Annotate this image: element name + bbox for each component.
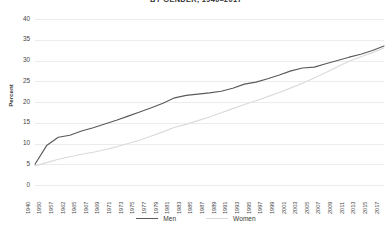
y-axis-tick-label: 10 bbox=[14, 140, 30, 146]
x-axis-tick-label: 1981 bbox=[163, 188, 172, 214]
x-axis-tick-label: 2011 bbox=[338, 188, 347, 214]
x-axis-tick-label: 1940 bbox=[24, 188, 33, 214]
x-axis-tick-label: 2001 bbox=[280, 188, 289, 214]
x-axis-tick-label: 1971 bbox=[105, 188, 114, 214]
x-axis-tick-label: 1993 bbox=[233, 188, 242, 214]
x-axis-tick-label: 1962 bbox=[59, 188, 68, 214]
series-lines bbox=[35, 19, 384, 185]
x-axis-tick-label: 1987 bbox=[198, 188, 207, 214]
legend-label: Women bbox=[233, 215, 256, 222]
y-axis-tick-label: 30 bbox=[14, 57, 30, 63]
x-axis-tick-label: 2007 bbox=[314, 188, 323, 214]
x-axis-tick-group: 1940195019571962196519671969197119731975… bbox=[35, 186, 384, 214]
plot-area bbox=[35, 19, 384, 185]
y-axis-tick-label: 25 bbox=[14, 78, 30, 84]
series-line-women bbox=[35, 48, 384, 166]
legend-item-women[interactable]: Women bbox=[206, 215, 256, 222]
y-axis-tick-label: 15 bbox=[14, 119, 30, 125]
x-axis-tick-label: 1965 bbox=[70, 188, 79, 214]
x-axis-tick-label: 1975 bbox=[128, 188, 137, 214]
x-axis-tick-label: 1950 bbox=[35, 188, 44, 214]
x-axis-tick-label: 2013 bbox=[349, 188, 358, 214]
x-axis-tick-label: 1995 bbox=[245, 188, 254, 214]
y-axis-label: Percent bbox=[7, 73, 14, 119]
x-axis-tick-label: 1979 bbox=[152, 188, 161, 214]
y-axis-tick-label: 20 bbox=[14, 99, 30, 105]
y-axis-tick-label: 40 bbox=[14, 16, 30, 22]
x-axis-tick-label: 1983 bbox=[175, 188, 184, 214]
legend-swatch-men-icon bbox=[136, 218, 158, 219]
x-axis-tick-label: 1999 bbox=[268, 188, 277, 214]
x-axis-tick-label: 1989 bbox=[210, 188, 219, 214]
series-line-men bbox=[35, 46, 384, 164]
x-axis-tick-label: 2005 bbox=[303, 188, 312, 214]
x-axis-tick-label: 1991 bbox=[221, 188, 230, 214]
x-axis-tick-label: 2017 bbox=[373, 188, 382, 214]
y-axis-tick-label: 5 bbox=[14, 161, 30, 167]
legend-label: Men bbox=[163, 215, 176, 222]
x-axis-tick-label: 1985 bbox=[186, 188, 195, 214]
x-axis-tick-label: 2003 bbox=[291, 188, 300, 214]
x-axis-tick-label: 1967 bbox=[82, 188, 91, 214]
x-axis-tick-label: 1973 bbox=[117, 188, 126, 214]
legend-swatch-women-icon bbox=[206, 218, 228, 219]
x-axis-tick-label: 2009 bbox=[326, 188, 335, 214]
x-axis-tick-label: 1957 bbox=[47, 188, 56, 214]
x-axis-tick-label: 1969 bbox=[93, 188, 102, 214]
chart-legend: MenWomen bbox=[0, 215, 392, 222]
x-axis-tick-label: 1997 bbox=[256, 188, 265, 214]
y-axis-tick-label: 35 bbox=[14, 36, 30, 42]
x-axis-tick-label: 2015 bbox=[361, 188, 370, 214]
chart-title: BY GENDER, 1940–2017 bbox=[0, 0, 392, 4]
y-axis-tick-label: 0 bbox=[14, 182, 30, 188]
x-axis-tick-label: 1977 bbox=[140, 188, 149, 214]
chart-figure: BY GENDER, 1940–2017 Percent 05101520253… bbox=[0, 0, 392, 232]
legend-item-men[interactable]: Men bbox=[136, 215, 176, 222]
